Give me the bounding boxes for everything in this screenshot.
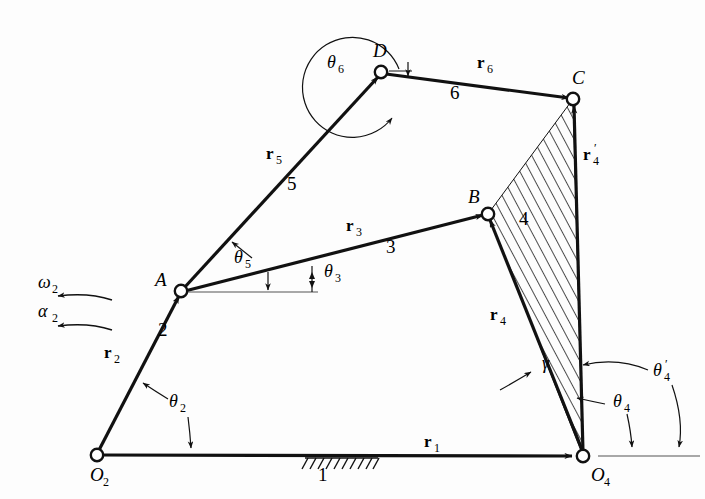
vector-label-r4-prime-sub: 4 — [593, 154, 599, 168]
joint-label-A-text: A — [153, 269, 167, 290]
angle-label-theta-3-sub: 3 — [335, 271, 341, 285]
angle-label-theta-2: θ 2 — [169, 391, 186, 415]
link-number-3: 3 — [386, 236, 396, 257]
angle-label-theta-3: θ 3 — [324, 261, 341, 285]
vector-label-r4-prime-mark: ′ — [594, 141, 597, 155]
vector-label-r4-sub: 4 — [500, 314, 506, 328]
joint-label-A: A — [153, 269, 167, 290]
motion-label-alpha-2: α 2 — [38, 301, 58, 325]
angle-label-theta-6-sub: 6 — [338, 62, 344, 76]
link-3 — [185, 215, 483, 291]
joint-label-O2-sub: 2 — [103, 475, 109, 489]
motion-label-omega-2: ω 2 — [38, 272, 58, 296]
vector-label-r5-text: r — [266, 144, 274, 163]
angle-label-theta-4: θ 4 — [613, 391, 630, 415]
joint-label-O2-text: O — [90, 464, 104, 485]
ground-hatch-icon — [302, 458, 379, 469]
vector-label-r2: r 2 — [104, 343, 120, 366]
vector-label-r1-text: r — [424, 432, 432, 451]
vector-label-r4: r 4 — [490, 305, 506, 328]
angle-label-theta-4-prime: θ 4 ′ — [653, 357, 670, 384]
linkage-diagram-root: O 2 A B C D O 4 r 1 r 2 r 3 r 4 r 4 ′ r … — [0, 0, 705, 499]
angle-label-theta-4-sub: 4 — [624, 401, 630, 415]
linkage-diagram-svg: O 2 A B C D O 4 r 1 r 2 r 3 r 4 r 4 ′ r … — [0, 0, 705, 499]
vector-label-r2-text: r — [104, 343, 112, 362]
joint-label-O4-sub: 4 — [604, 475, 610, 489]
angle-label-theta-5-sub: 5 — [245, 257, 251, 271]
theta-6-arc — [302, 37, 408, 137]
joint-D[interactable] — [375, 66, 387, 78]
joint-label-O2: O 2 — [90, 464, 109, 489]
vector-label-r6-text: r — [477, 53, 485, 72]
angle-label-theta-3-greek: θ — [324, 261, 333, 281]
motion-label-omega-2-sub: 2 — [52, 282, 58, 296]
link-number-6: 6 — [450, 82, 460, 103]
gamma-leader — [500, 372, 531, 390]
theta-2-leader — [143, 383, 191, 448]
link-number-2: 2 — [158, 319, 168, 340]
angle-label-theta-4-prime-greek: θ — [653, 360, 662, 380]
joint-label-O4: O 4 — [591, 464, 610, 489]
angle-label-theta-2-greek: θ — [169, 391, 178, 411]
theta-3-indicator — [309, 266, 315, 292]
link-number-5: 5 — [287, 173, 297, 194]
angle-label-theta-6-greek: θ — [327, 52, 336, 72]
angle-label-gamma-greek: γ — [542, 353, 550, 373]
joint-label-B: B — [468, 186, 480, 207]
vector-label-r3-text: r — [346, 216, 354, 235]
vector-label-r5-sub: 5 — [276, 153, 282, 167]
angle-label-theta-4-prime-mark: ′ — [665, 357, 668, 371]
angle-label-gamma: γ — [542, 353, 550, 373]
joint-label-D-text: D — [372, 40, 387, 61]
link-number-1: 1 — [318, 464, 328, 485]
angle-label-theta-4-prime-sub: 4 — [664, 370, 670, 384]
motion-label-alpha-2-sub: 2 — [52, 311, 58, 325]
joint-label-D: D — [372, 40, 387, 61]
vector-label-r3: r 3 — [346, 216, 362, 239]
angle-label-theta-5: θ 5 — [234, 247, 251, 271]
vector-label-r4-prime-text: r — [583, 145, 591, 164]
link-5 — [184, 77, 378, 288]
joint-label-B-text: B — [468, 186, 480, 207]
joint-label-C-text: C — [572, 67, 585, 88]
vector-label-r6: r 6 — [477, 53, 493, 76]
joint-A[interactable] — [175, 285, 187, 297]
link-4-ternary-body — [488, 99, 583, 456]
vector-label-r5: r 5 — [266, 144, 282, 167]
angle-label-theta-5-greek: θ — [234, 247, 243, 267]
joint-B[interactable] — [482, 208, 494, 220]
link-1-ground — [100, 455, 572, 456]
angle-label-theta-2-sub: 2 — [180, 401, 186, 415]
alpha-2-arrow — [58, 325, 112, 330]
motion-label-omega-2-greek: ω — [38, 272, 51, 292]
motion-label-alpha-2-greek: α — [38, 301, 48, 321]
vector-label-r2-sub: 2 — [114, 352, 120, 366]
joint-O2[interactable] — [91, 449, 103, 461]
vector-label-r4-prime: r 4 ′ — [583, 141, 599, 168]
vector-label-r1-sub: 1 — [434, 441, 440, 455]
vector-label-r4-text: r — [490, 305, 498, 324]
vector-label-r3-sub: 3 — [356, 225, 362, 239]
angle-label-theta-6: θ 6 — [327, 52, 344, 76]
joint-O4[interactable] — [577, 450, 589, 462]
vector-label-r6-sub: 6 — [487, 62, 493, 76]
vector-label-r1: r 1 — [424, 432, 440, 455]
link-number-4: 4 — [519, 208, 529, 229]
angle-label-theta-4-greek: θ — [613, 391, 622, 411]
joint-label-O4-text: O — [591, 464, 605, 485]
link-6 — [386, 74, 569, 98]
joint-label-C: C — [572, 67, 585, 88]
omega-2-arrow — [58, 295, 112, 300]
joint-C[interactable] — [567, 93, 579, 105]
